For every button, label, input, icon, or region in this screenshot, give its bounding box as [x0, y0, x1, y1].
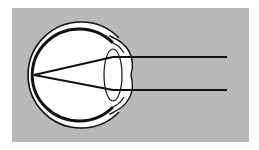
eyeball: [28, 22, 132, 128]
eye-diagram: Eye diagram with parallel light rays con…: [0, 0, 259, 150]
